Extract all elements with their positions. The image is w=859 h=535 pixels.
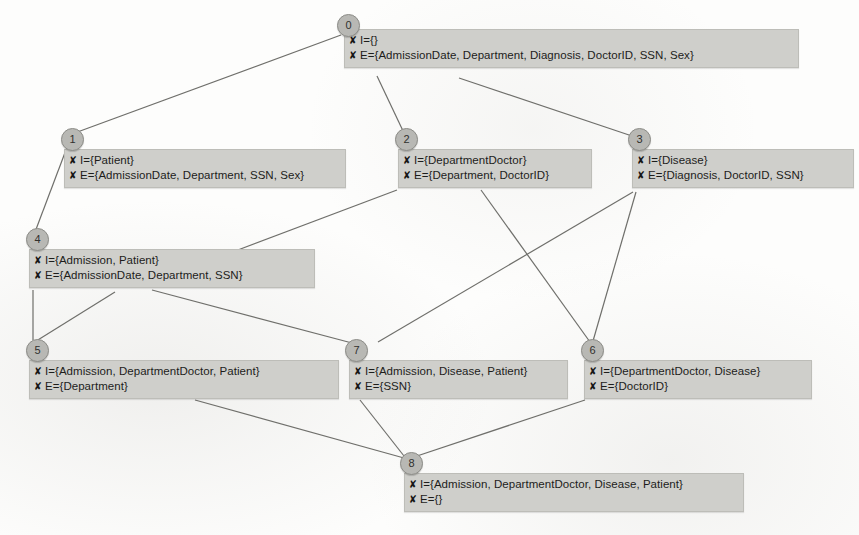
node-2-e-set-text: E={Department, DoctorID} xyxy=(414,168,549,183)
node-4-e-set-row: ✘E={AdmissionDate, Department, SSN} xyxy=(34,268,309,283)
node-0-id-circle[interactable]: 0 xyxy=(337,14,360,37)
node-8-i-set-text: I={Admission, DepartmentDoctor, Disease,… xyxy=(420,477,683,492)
bullet-marker-icon: ✘ xyxy=(409,492,418,507)
node-2-id-circle[interactable]: 2 xyxy=(395,128,418,151)
node-3-e-set-row: ✘E={Diagnosis, DoctorID, SSN} xyxy=(637,168,848,183)
node-4-id-circle[interactable]: 4 xyxy=(26,228,49,251)
bullet-marker-icon: ✘ xyxy=(409,477,418,492)
node-6-id-circle[interactable]: 6 xyxy=(581,339,604,362)
bullet-marker-icon: ✘ xyxy=(354,379,363,394)
node-0-i-set-text: I={} xyxy=(360,33,378,48)
edge-0-1 xyxy=(72,35,341,134)
node-5-e-set-text: E={Department} xyxy=(45,379,128,394)
node-6-e-set-text: E={DoctorID} xyxy=(600,379,668,394)
edge-4-7 xyxy=(152,290,352,343)
node-1-e-set-row: ✘E={AdmissionDate, Department, SSN, Sex} xyxy=(69,168,340,183)
edge-2-6 xyxy=(481,190,590,342)
node-1-i-set-row: ✘I={Patient} xyxy=(69,153,340,168)
node-5-id-circle[interactable]: 5 xyxy=(26,339,49,362)
edge-0-3 xyxy=(459,78,632,136)
bullet-marker-icon: ✘ xyxy=(589,379,598,394)
edge-0-2 xyxy=(377,76,404,133)
node-6-i-set-row: ✘I={DepartmentDoctor, Disease} xyxy=(589,364,806,379)
node-2-i-set-text: I={DepartmentDoctor} xyxy=(414,153,527,168)
edge-2-4 xyxy=(230,190,397,253)
bullet-marker-icon: ✘ xyxy=(34,253,43,268)
bullet-marker-icon: ✘ xyxy=(403,168,412,183)
edge-5-8 xyxy=(195,400,404,458)
bullet-marker-icon: ✘ xyxy=(69,153,78,168)
edge-3-6 xyxy=(593,192,636,341)
node-6-i-set-text: I={DepartmentDoctor, Disease} xyxy=(600,364,760,379)
bullet-marker-icon: ✘ xyxy=(354,364,363,379)
bullet-marker-icon: ✘ xyxy=(589,364,598,379)
node-7-label-box[interactable]: ✘I={Admission, Disease, Patient}✘E={SSN} xyxy=(349,360,568,399)
node-5-e-set-row: ✘E={Department} xyxy=(34,379,333,394)
node-3-i-set-text: I={Disease} xyxy=(648,153,708,168)
edge-5-4 xyxy=(33,292,115,343)
node-4-i-set-row: ✘I={Admission, Patient} xyxy=(34,253,309,268)
node-4-label-box[interactable]: ✘I={Admission, Patient}✘E={AdmissionDate… xyxy=(29,249,315,288)
node-0-e-set-row: ✘E={AdmissionDate, Department, Diagnosis… xyxy=(349,48,793,63)
node-8-i-set-row: ✘I={Admission, DepartmentDoctor, Disease… xyxy=(409,477,738,492)
node-6-e-set-row: ✘E={DoctorID} xyxy=(589,379,806,394)
bullet-marker-icon: ✘ xyxy=(34,268,43,283)
node-1-label-box[interactable]: ✘I={Patient}✘E={AdmissionDate, Departmen… xyxy=(64,149,346,188)
node-7-id-circle[interactable]: 7 xyxy=(345,339,368,362)
bullet-marker-icon: ✘ xyxy=(34,364,43,379)
node-5-i-set-text: I={Admission, DepartmentDoctor, Patient} xyxy=(45,364,260,379)
edge-6-8 xyxy=(414,400,585,457)
node-1-id-circle[interactable]: 1 xyxy=(61,128,84,151)
node-2-e-set-row: ✘E={Department, DoctorID} xyxy=(403,168,586,183)
bullet-marker-icon: ✘ xyxy=(34,379,43,394)
node-6-label-box[interactable]: ✘I={DepartmentDoctor, Disease}✘E={Doctor… xyxy=(584,360,812,399)
node-8-e-set-text: E={} xyxy=(420,492,442,507)
node-7-e-set-text: E={SSN} xyxy=(365,379,411,394)
node-4-e-set-text: E={AdmissionDate, Department, SSN} xyxy=(45,268,243,283)
node-7-e-set-row: ✘E={SSN} xyxy=(354,379,562,394)
node-7-i-set-text: I={Admission, Disease, Patient} xyxy=(365,364,527,379)
node-8-e-set-row: ✘E={} xyxy=(409,492,738,507)
bullet-marker-icon: ✘ xyxy=(637,153,646,168)
node-3-label-box[interactable]: ✘I={Disease}✘E={Diagnosis, DoctorID, SSN… xyxy=(632,149,854,188)
bullet-marker-icon: ✘ xyxy=(349,48,358,63)
bullet-marker-icon: ✘ xyxy=(69,168,78,183)
bullet-marker-icon: ✘ xyxy=(637,168,646,183)
edge-3-7 xyxy=(378,192,633,342)
node-3-id-circle[interactable]: 3 xyxy=(628,128,651,151)
node-3-e-set-text: E={Diagnosis, DoctorID, SSN} xyxy=(648,168,804,183)
node-0-i-set-row: ✘I={} xyxy=(349,33,793,48)
node-5-i-set-row: ✘I={Admission, DepartmentDoctor, Patient… xyxy=(34,364,333,379)
node-1-e-set-text: E={AdmissionDate, Department, SSN, Sex} xyxy=(80,168,304,183)
node-0-label-box[interactable]: ✘I={}✘E={AdmissionDate, Department, Diag… xyxy=(344,29,799,68)
node-8-id-circle[interactable]: 8 xyxy=(400,452,423,475)
node-7-i-set-row: ✘I={Admission, Disease, Patient} xyxy=(354,364,562,379)
node-1-i-set-text: I={Patient} xyxy=(80,153,134,168)
node-0-e-set-text: E={AdmissionDate, Department, Diagnosis,… xyxy=(360,48,694,63)
diagram-canvas: ✘I={}✘E={AdmissionDate, Department, Diag… xyxy=(0,0,859,535)
node-2-i-set-row: ✘I={DepartmentDoctor} xyxy=(403,153,586,168)
edge-1-4 xyxy=(35,150,66,232)
node-3-i-set-row: ✘I={Disease} xyxy=(637,153,848,168)
node-4-i-set-text: I={Admission, Patient} xyxy=(45,253,159,268)
node-5-label-box[interactable]: ✘I={Admission, DepartmentDoctor, Patient… xyxy=(29,360,339,399)
node-8-label-box[interactable]: ✘I={Admission, DepartmentDoctor, Disease… xyxy=(404,473,744,512)
node-2-label-box[interactable]: ✘I={DepartmentDoctor}✘E={Department, Doc… xyxy=(398,149,592,188)
bullet-marker-icon: ✘ xyxy=(403,153,412,168)
